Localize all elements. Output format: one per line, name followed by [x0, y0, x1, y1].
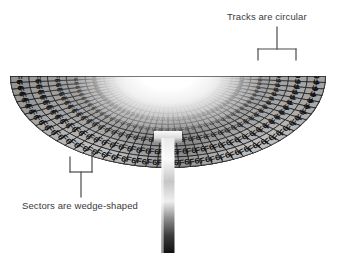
sector-cell-value: F6	[136, 156, 148, 167]
tracks-callout-bracket	[258, 27, 296, 60]
sectors-callout-bracket	[70, 152, 92, 197]
arm-highlight	[162, 138, 164, 253]
sector-cell-value: F6	[188, 156, 200, 167]
sectors-callout-label: Sectors are wedge-shaped	[22, 200, 138, 211]
disk-platter-illustration: F6F6F6F6F6F6F6F6F6F6F6F6F6F6F6F6F6F6F6F6…	[0, 0, 339, 276]
sector-cell-value: F6	[146, 157, 158, 167]
sector-cell-value: F6	[178, 157, 190, 167]
diagram-canvas: F6F6F6F6F6F6F6F6F6F6F6F6F6F6F6F6F6F6F6F6…	[0, 0, 339, 276]
tracks-callout-label: Tracks are circular	[227, 11, 307, 22]
